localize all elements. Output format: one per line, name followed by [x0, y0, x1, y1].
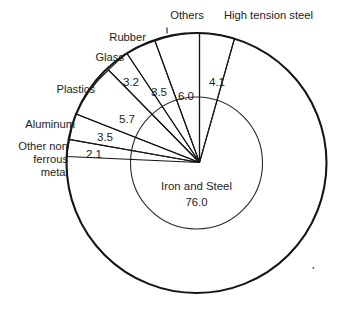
value-other-non-ferrous-metal: 2.1	[86, 147, 102, 160]
value-rubber: 3.5	[151, 85, 167, 98]
pie-chart-svg: Others High tension steel Rubber Glass P…	[0, 0, 346, 313]
value-others: 6.0	[178, 89, 194, 102]
value-glass: 3.2	[123, 75, 139, 88]
slice-iron-and-steel	[131, 97, 263, 229]
label-iron-and-steel: Iron and Steel	[161, 180, 232, 192]
value-high-tension-steel: 4.1	[209, 75, 225, 88]
value-iron-and-steel: 76.0	[185, 196, 207, 208]
scan-speck	[313, 267, 315, 269]
label-aluminum: Aluminum	[25, 118, 75, 130]
value-plastics: 5.7	[119, 112, 135, 125]
label-other-non-ferrous-metal-line3: metal	[41, 166, 68, 178]
label-other-non-ferrous-metal-line2: ferrous	[33, 153, 68, 165]
pie-chart: Others High tension steel Rubber Glass P…	[0, 0, 346, 313]
value-aluminum: 3.5	[97, 130, 113, 143]
label-other-non-ferrous-metal-line1: Other non	[18, 140, 68, 152]
label-rubber: Rubber	[109, 31, 146, 43]
label-plastics: Plastics	[56, 83, 95, 95]
label-others: Others	[170, 9, 204, 21]
label-high-tension-steel: High tension steel	[224, 9, 313, 21]
label-glass: Glass	[95, 51, 124, 63]
